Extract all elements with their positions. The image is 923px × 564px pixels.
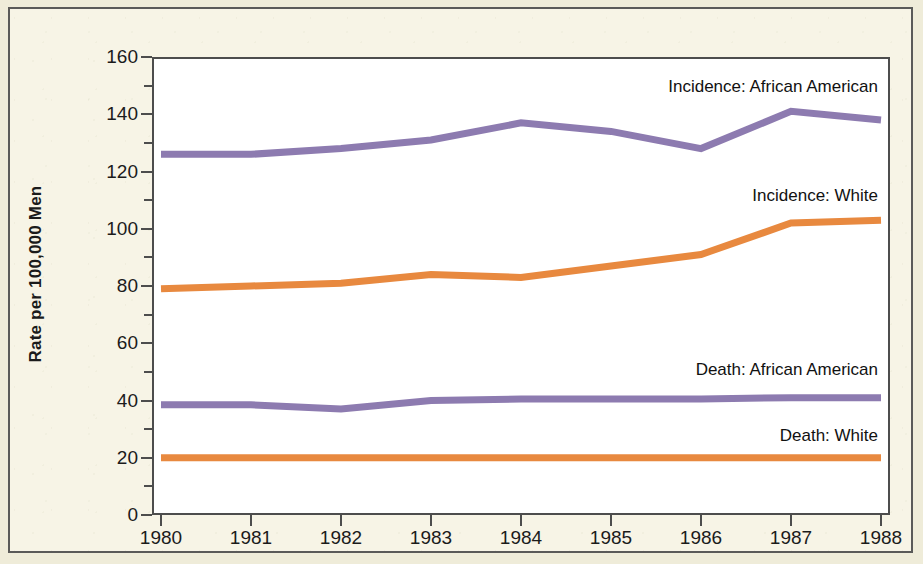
x-axis-tick (880, 515, 882, 526)
y-axis-tick-label: 0 (68, 504, 138, 526)
y-axis-tick-major (141, 228, 152, 230)
series-line (161, 220, 881, 289)
y-axis-title: Rate per 100,000 Men (26, 164, 46, 384)
y-axis-tick-minor (144, 371, 152, 373)
figure-frame: Rate per 100,000 Men 0204060801001201401… (8, 7, 913, 553)
x-axis-tick (250, 515, 252, 526)
y-axis-tick-label: 60 (68, 332, 138, 354)
y-axis-tick-label: 80 (68, 275, 138, 297)
y-axis-tick-major (141, 400, 152, 402)
y-axis-tick-label: 20 (68, 447, 138, 469)
y-axis-tick-label: 160 (68, 46, 138, 68)
y-axis-tick-major (141, 285, 152, 287)
y-axis-tick-minor (144, 485, 152, 487)
x-axis-tick (520, 515, 522, 526)
y-axis-tick-minor (144, 314, 152, 316)
plot-wrapper: 020406080100120140160 198019811982198319… (152, 57, 890, 515)
y-axis-tick-major (141, 171, 152, 173)
y-axis-tick-label: 40 (68, 390, 138, 412)
y-axis-tick-label: 140 (68, 103, 138, 125)
x-axis-tick (340, 515, 342, 526)
y-axis-tick-label: 100 (68, 218, 138, 240)
series-line (161, 111, 881, 154)
y-axis-tick-label: 120 (68, 161, 138, 183)
x-axis-tick-label: 1988 (826, 527, 923, 549)
x-axis-tick (610, 515, 612, 526)
series-line (161, 398, 881, 409)
x-axis-tick (160, 515, 162, 526)
y-axis-tick-minor (144, 256, 152, 258)
y-axis-tick-minor (144, 85, 152, 87)
x-axis-tick (790, 515, 792, 526)
series-label-death-white: Death: White (780, 426, 878, 446)
series-lines (152, 57, 890, 515)
y-axis-tick-minor (144, 142, 152, 144)
series-label-death-african-american: Death: African American (696, 360, 878, 380)
series-label-incidence-african-american: Incidence: African American (668, 77, 878, 97)
y-axis-tick-major (141, 342, 152, 344)
y-axis-tick-major (141, 457, 152, 459)
series-label-incidence-white: Incidence: White (752, 186, 878, 206)
x-axis-tick (430, 515, 432, 526)
y-axis-tick-minor (144, 199, 152, 201)
x-axis-tick (700, 515, 702, 526)
y-axis-tick-major (141, 514, 152, 516)
y-axis-tick-minor (144, 428, 152, 430)
y-axis-tick-major (141, 56, 152, 58)
y-axis-tick-major (141, 113, 152, 115)
